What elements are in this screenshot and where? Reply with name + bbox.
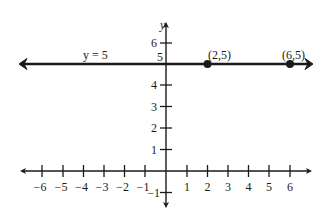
y-tick-label: 2 bbox=[151, 121, 157, 135]
x-tick-label: −4 bbox=[75, 180, 88, 194]
x-tick-label: −6 bbox=[34, 180, 47, 194]
y-axis-label: y bbox=[159, 18, 166, 32]
coordinate-plane: −6 −5 −4 −3 −2 −1 1 2 3 4 5 6 y 6 bbox=[0, 0, 327, 224]
x-tick-label: −5 bbox=[55, 180, 68, 194]
x-tick-label: −3 bbox=[96, 180, 109, 194]
x-tick-label: 6 bbox=[287, 180, 293, 194]
y-axis: y 6 5 4 3 2 1 −1 bbox=[147, 18, 172, 208]
x-tick-label: 1 bbox=[184, 180, 190, 194]
x-tick-label: 4 bbox=[246, 180, 252, 194]
x-tick-label: −2 bbox=[116, 180, 129, 194]
point-label: (2,5) bbox=[208, 48, 231, 62]
y-tick-label: 3 bbox=[151, 100, 157, 114]
y-tick-label: −1 bbox=[147, 186, 160, 200]
line-label: y = 5 bbox=[83, 48, 108, 62]
y-tick-label: 5 bbox=[157, 50, 163, 64]
point-label: (6,5) bbox=[282, 48, 305, 62]
y-tick-label: 6 bbox=[151, 36, 157, 50]
x-tick-label: 2 bbox=[205, 180, 211, 194]
y-tick-label: 4 bbox=[151, 78, 157, 92]
x-tick-label: 3 bbox=[225, 180, 231, 194]
x-tick-label: 5 bbox=[266, 180, 272, 194]
y-tick-label: 1 bbox=[151, 143, 157, 157]
